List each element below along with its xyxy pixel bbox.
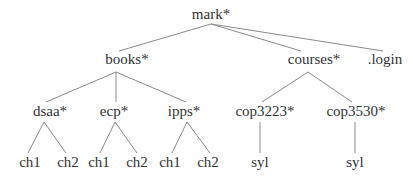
node-ipps: ipps*	[168, 103, 201, 119]
node-dsaa-ch1: ch1	[19, 154, 41, 170]
node-ecp-ch2: ch2	[126, 154, 148, 170]
node-login: .login	[368, 51, 403, 67]
node-ipps-ch1: ch1	[159, 154, 181, 170]
node-ipps-ch2: ch2	[197, 154, 219, 170]
tree-nodes: mark* books* courses* .login dsaa* ecp* …	[19, 6, 403, 170]
node-books: books*	[105, 51, 148, 67]
node-dsaa: dsaa*	[33, 103, 67, 119]
edge-books-ipps	[116, 72, 186, 102]
node-cop3223: cop3223*	[235, 103, 294, 119]
edge-dsaa-dsaa_ch2	[44, 122, 66, 153]
edge-ecp-ecp_ch2	[115, 122, 137, 153]
edge-mark-courses	[211, 24, 301, 51]
edge-books-dsaa	[46, 72, 116, 102]
edge-courses-cop3223	[262, 72, 308, 102]
node-ecp-ch1: ch1	[88, 154, 110, 170]
node-ecp: ecp*	[100, 103, 128, 119]
tree-edges	[28, 24, 383, 153]
node-dsaa-ch2: ch2	[57, 154, 79, 170]
node-mark: mark*	[192, 6, 230, 22]
edge-mark-books	[119, 24, 211, 51]
node-cop3223-syl: syl	[251, 154, 269, 170]
edge-courses-cop3530	[308, 72, 352, 102]
edge-ecp-ecp_ch1	[100, 122, 115, 153]
node-cop3530: cop3530*	[326, 103, 385, 119]
node-courses: courses*	[288, 51, 341, 67]
edge-mark-login	[211, 24, 383, 51]
node-cop3530-syl: syl	[346, 154, 364, 170]
edge-ipps-ipps_ch2	[187, 122, 210, 153]
edge-ipps-ipps_ch1	[172, 122, 187, 153]
edge-dsaa-dsaa_ch1	[28, 122, 44, 153]
directory-tree-diagram: mark* books* courses* .login dsaa* ecp* …	[0, 0, 413, 182]
